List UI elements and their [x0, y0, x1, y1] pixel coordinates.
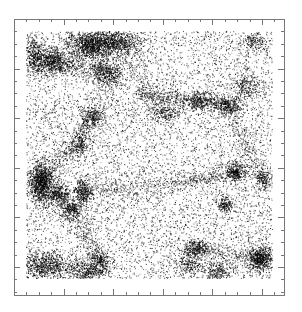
density-scatter-plot: [0, 0, 302, 312]
